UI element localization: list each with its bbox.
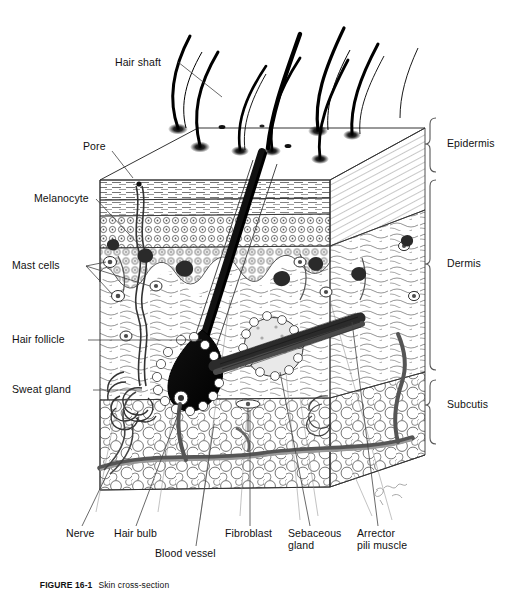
label-melanocyte: Melanocyte [34,193,89,205]
label-hair-shaft: Hair shaft [115,57,161,69]
layer-brackets [425,118,436,444]
label-dermis: Dermis [447,258,481,270]
artist-signature [375,484,407,505]
label-sweat-gland: Sweat gland [12,384,71,396]
label-sebaceous-gland: Sebaceous gland [288,528,341,551]
skin-block-right-face [330,128,425,487]
figure-caption: FIGURE 16-1Skin cross-section [30,570,169,592]
label-epidermis: Epidermis [447,138,495,150]
label-hair-follicle: Hair follicle [12,334,65,346]
stratum-corneum-front [100,180,330,200]
label-blood-vessel: Blood vessel [155,548,216,560]
label-subcutis: Subcutis [447,399,488,411]
label-hair-bulb: Hair bulb [114,528,157,540]
label-nerve: Nerve [66,528,95,540]
label-fibroblast: Fibroblast [225,528,272,540]
figure-caption-text: Skin cross-section [98,580,169,590]
label-arrector-pili-muscle: Arrector pili muscle [357,528,407,551]
figure-number: FIGURE 16-1 [40,580,93,590]
label-pore: Pore [83,141,106,153]
label-mast-cells: Mast cells [12,260,60,272]
